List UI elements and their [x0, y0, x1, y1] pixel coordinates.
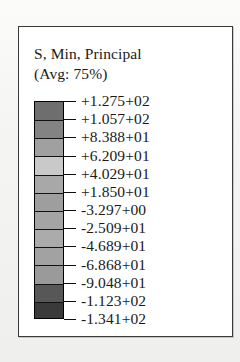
colorbar-band: [35, 120, 63, 138]
colorbar-tick: [64, 265, 76, 266]
colorbar-tick: [64, 156, 76, 157]
colorbar-value-label: +1.275+02: [81, 92, 150, 110]
colorbar-band: [35, 229, 63, 247]
colorbar-band: [35, 247, 63, 265]
contour-colorbar: [34, 101, 64, 319]
colorbar-value-label: -1.341+02: [81, 310, 146, 328]
legend-title-block: S, Min, Principal (Avg: 75%): [34, 44, 142, 83]
colorbar-tick: [64, 319, 76, 320]
colorbar-tick: [64, 192, 76, 193]
colorbar-band: [35, 284, 63, 302]
colorbar-band: [35, 265, 63, 283]
colorbar-band: [35, 156, 63, 174]
colorbar-tick: [64, 228, 76, 229]
colorbar-tick: [64, 119, 76, 120]
colorbar-value-label: +6.209+01: [81, 147, 150, 165]
colorbar-value-label: -2.509+01: [81, 219, 146, 237]
page-background: S, Min, Principal (Avg: 75%) +1.275+02+1…: [0, 0, 240, 362]
colorbar-tick: [64, 246, 76, 247]
colorbar-tick: [64, 137, 76, 138]
colorbar-tick: [64, 283, 76, 284]
colorbar-value-label: -9.048+01: [81, 274, 146, 292]
colorbar-band: [35, 211, 63, 229]
colorbar-band: [35, 175, 63, 193]
legend-title-averaging: (Avg: 75%): [34, 64, 142, 84]
colorbar-band: [35, 302, 63, 319]
colorbar-band: [35, 102, 63, 120]
legend-title-primary: S, Min, Principal: [34, 44, 142, 64]
colorbar-tick: [64, 101, 76, 102]
colorbar-band: [35, 138, 63, 156]
colorbar-value-label: +1.850+01: [81, 183, 150, 201]
colorbar-value-label: +1.057+02: [81, 110, 150, 128]
colorbar-tick: [64, 210, 76, 211]
colorbar-band: [35, 193, 63, 211]
colorbar-value-label: -1.123+02: [81, 292, 146, 310]
colorbar-value-label: +8.388+01: [81, 128, 150, 146]
colorbar-tick: [64, 174, 76, 175]
colorbar-value-label: -3.297+00: [81, 201, 146, 219]
contour-legend-frame: S, Min, Principal (Avg: 75%) +1.275+02+1…: [18, 26, 233, 337]
colorbar-value-label: -4.689+01: [81, 237, 146, 255]
colorbar-tick: [64, 301, 76, 302]
colorbar-value-label: -6.868+01: [81, 256, 146, 274]
colorbar-value-label: +4.029+01: [81, 165, 150, 183]
